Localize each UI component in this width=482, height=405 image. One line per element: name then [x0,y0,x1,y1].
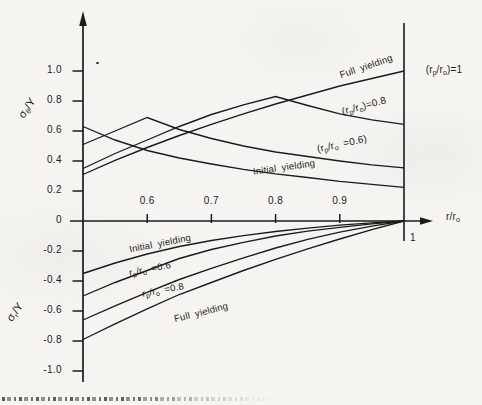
y-tick-label: 0.2 [26,184,62,195]
label-rp-ro-equals-1: (rp/ro)=1 [426,64,463,76]
y-tick-label: -1.0 [26,364,62,375]
x-tick-label: 0.9 [325,195,355,206]
x-tick-label: 0.8 [261,195,291,206]
x-axis-end-tick-label: 1 [410,232,416,243]
y-tick-label: -0.2 [26,244,62,255]
y-tick-label: -0.4 [26,274,62,285]
x-axis-title: r/ro [446,211,460,223]
y-tick-label: 0.6 [26,124,62,135]
scan-speck [96,62,99,64]
stress-distribution-figure: Full yielding (rp/ro)=1 (rp/ro)=0.8 (rp/… [0,0,482,405]
y-tick-label: -0.6 [26,304,62,315]
y-tick-label: 0 [26,214,62,225]
x-tick-label: 0.7 [196,195,226,206]
cropped-caption-fragment [2,397,312,401]
y-tick-label: 0.8 [26,94,62,105]
x-tick-label: 0.6 [132,195,162,206]
y-tick-label: -0.8 [26,334,62,345]
chart-canvas [0,0,482,405]
y-tick-label: 1.0 [26,64,62,75]
y-tick-label: 0.4 [26,154,62,165]
